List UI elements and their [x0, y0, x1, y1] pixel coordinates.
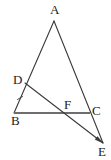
segment-ab [14, 21, 54, 113]
geometry-figure: A B C D E F [0, 0, 111, 160]
vertex-label-c: C [92, 104, 101, 117]
vertex-label-a: A [50, 3, 59, 16]
vertex-label-b: B [11, 114, 20, 127]
vertex-label-f: F [64, 98, 71, 111]
vertex-label-d: D [13, 73, 22, 86]
vertex-label-e: E [98, 145, 106, 158]
